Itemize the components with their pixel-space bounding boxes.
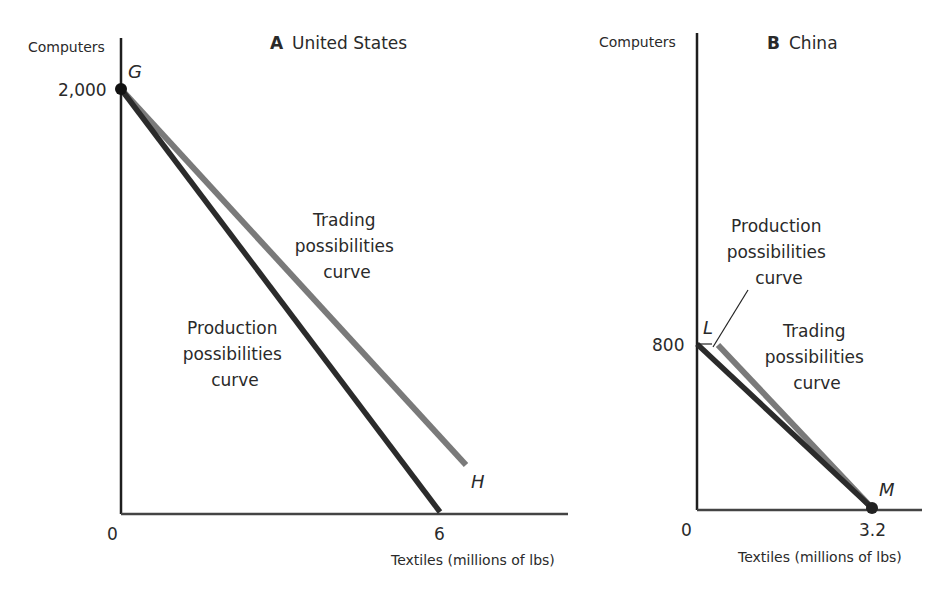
panel-b-title: China bbox=[789, 33, 838, 53]
panel-a-united-states: Computers A United States 2,000 G H 0 6 … bbox=[28, 33, 568, 568]
panel-b-origin: 0 bbox=[681, 520, 692, 540]
panel-a-y-tick-2000: 2,000 bbox=[58, 80, 107, 100]
panel-a-point-g-label: G bbox=[128, 61, 142, 82]
panel-a-x-tick-6: 6 bbox=[434, 524, 445, 544]
panel-b-production-possibilities-line bbox=[697, 344, 872, 508]
panel-b-china: Computers B China 800 L M 0 3.2 Textiles… bbox=[599, 33, 922, 565]
panel-a-production-possibilities-line bbox=[121, 89, 440, 512]
panel-b-y-label: Computers bbox=[599, 34, 676, 50]
panel-a-letter: A bbox=[270, 33, 284, 53]
panel-a-point-g bbox=[115, 83, 127, 95]
panel-a-trading-possibilities-line bbox=[121, 89, 466, 465]
panel-b-point-m-label: M bbox=[879, 479, 895, 500]
panel-b-ppc-leader-line bbox=[713, 290, 748, 347]
panel-b-y-tick-800: 800 bbox=[652, 335, 684, 355]
panel-a-origin: 0 bbox=[107, 524, 118, 544]
panel-b-letter: B bbox=[767, 33, 780, 53]
panel-a-title: United States bbox=[292, 33, 407, 53]
panel-b-trading-label: Trading possibilities curve bbox=[765, 321, 870, 393]
panel-a-x-label: Textiles (millions of lbs) bbox=[390, 552, 555, 568]
panel-b-production-label: Production possibilities curve bbox=[727, 216, 832, 288]
panel-b-x-label: Textiles (millions of lbs) bbox=[737, 549, 902, 565]
panel-a-production-label: Production possibilities curve bbox=[183, 318, 288, 390]
panel-a-point-h-label: H bbox=[471, 471, 485, 492]
panel-b-point-l-label: L bbox=[703, 317, 713, 338]
panel-a-y-label: Computers bbox=[28, 39, 105, 55]
panel-b-point-m bbox=[866, 502, 878, 514]
panel-b-x-tick-3-2: 3.2 bbox=[859, 520, 886, 540]
panel-a-trading-label: Trading possibilities curve bbox=[295, 210, 400, 282]
chart-canvas: Computers A United States 2,000 G H 0 6 … bbox=[0, 0, 952, 602]
